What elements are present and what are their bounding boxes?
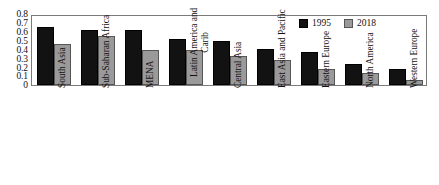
x-axis-category-label-line: Carib [200, 8, 211, 77]
bar-1995 [389, 69, 406, 85]
bar-1995 [257, 49, 274, 85]
y-axis-tick-label: 0 [23, 81, 28, 91]
bar-1995 [213, 41, 230, 85]
bar-1995 [169, 39, 186, 85]
legend-entry-1995: 1995 [299, 19, 331, 29]
legend-swatch-icon [299, 19, 308, 28]
bar-1995 [81, 30, 98, 85]
bar-chart: 0.80.70.60.50.40.30.20.10 19952018 South… [0, 0, 439, 185]
y-axis-tick-labels: 0.80.70.60.50.40.30.20.10 [0, 11, 31, 89]
x-axis-category-label: South Asia [57, 47, 68, 88]
x-axis-category-label: Latin America andCarib [189, 8, 210, 77]
bar-1995 [301, 52, 318, 85]
bar-1995 [37, 27, 54, 85]
x-axis-category-label: Sub-Saharan Africa [101, 15, 112, 88]
bar-1995 [125, 30, 142, 85]
x-axis-category-label: North America [365, 32, 376, 88]
x-axis-category-label: MENA [145, 61, 156, 88]
x-axis-category-label: Central Asia [233, 42, 244, 88]
legend-label: 1995 [312, 19, 331, 29]
legend-swatch-icon [344, 19, 353, 28]
chart-legend: 19952018 [299, 19, 376, 29]
x-axis-category-labels: South AsiaSub-Saharan AfricaMENALatin Am… [31, 86, 427, 185]
bar-1995 [345, 64, 362, 85]
x-axis-category-label: Western Europe [409, 29, 420, 88]
x-axis-category-label: Eastern Europe [321, 31, 332, 88]
legend-label: 2018 [357, 19, 376, 29]
x-axis-category-label-line: Latin America and [189, 8, 200, 77]
legend-entry-2018: 2018 [344, 19, 376, 29]
x-axis-category-label: East Asia and Pacific [277, 9, 288, 88]
